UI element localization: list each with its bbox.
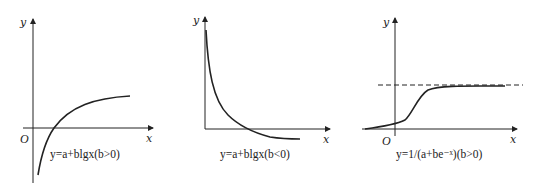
origin-label: O [382,134,391,148]
graph-log-decreasing: y x y=a+blgx(b<0) [192,14,330,161]
log-curve-decreasing [206,30,300,139]
x-axis-label: x [146,132,153,145]
y-axis-label: y [192,14,200,27]
log-curve-increasing [38,96,130,175]
x-axis-label: x [323,133,330,146]
y-axis-label: y [19,16,27,29]
y-axis-label: y [382,16,390,29]
function-graphs-figure: y x O y=a+blgx(b>0) y x y=a+blgx(b<0) y … [0,0,540,191]
x-axis-label: x [510,133,517,146]
graph-caption: y=a+blgx(b>0) [50,148,120,161]
graph-caption: y=1/(a+be⁻ˣ)(b>0) [396,148,482,161]
graph-logistic: y x O y=1/(a+be⁻ˣ)(b>0) [362,16,523,161]
graph-log-increasing: y x O y=a+blgx(b>0) [19,16,153,183]
logistic-curve [365,86,505,129]
origin-label: O [20,132,29,146]
graph-caption: y=a+blgx(b<0) [220,148,290,161]
